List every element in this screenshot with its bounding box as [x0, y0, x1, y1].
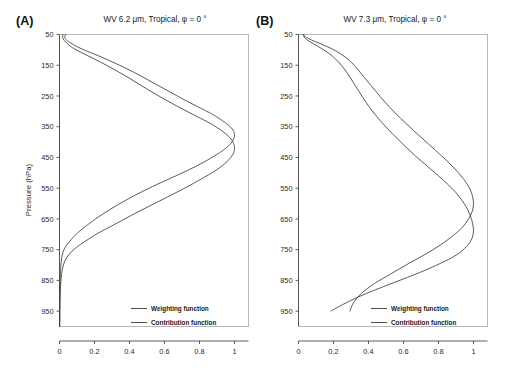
x-tick-label: 1	[471, 347, 475, 356]
y-tick-label: 850	[41, 276, 53, 285]
panel-b-title: WV 7.3 μm, Tropical, φ = 0 °	[343, 15, 446, 24]
legend-label-contribution-a: Contribution function	[151, 319, 216, 326]
panel-a-tag: (A)	[16, 14, 33, 28]
x-tick-label: 0.6	[398, 347, 408, 356]
y-tick-label: 950	[280, 307, 292, 316]
panel-b-tag: (B)	[256, 14, 273, 28]
y-tick-label: 150	[41, 61, 53, 70]
y-tick-label: 350	[41, 122, 53, 131]
y-tick-label: 650	[41, 215, 53, 224]
y-tick-label: 750	[280, 245, 292, 254]
legend-label-weighting-b: Weighting function	[391, 305, 449, 313]
x-tick-label: 0.2	[89, 347, 99, 356]
x-tick-label: 0	[296, 347, 300, 356]
x-tick-label: 0	[57, 347, 61, 356]
panel-a-y-axis-title: Pressure (hPa)	[24, 163, 33, 216]
panel-a-title: WV 6.2 μm, Tropical, φ = 0 °	[103, 15, 206, 24]
y-tick-label: 750	[41, 245, 53, 254]
y-tick-label: 250	[280, 92, 292, 101]
x-tick-label: 1	[232, 347, 236, 356]
y-tick-label: 650	[280, 215, 292, 224]
y-tick-label: 550	[41, 184, 53, 193]
x-tick-label: 0.8	[194, 347, 204, 356]
figure-root: (A) WV 6.2 μm, Tropical, φ = 0 ° Pressur…	[0, 0, 506, 376]
x-tick-label: 0.6	[159, 347, 169, 356]
x-tick-label: 0.4	[124, 347, 134, 356]
y-tick-label: 250	[41, 92, 53, 101]
y-tick-label: 50	[284, 30, 292, 39]
legend-label-contribution-b: Contribution function	[391, 319, 456, 326]
x-tick-label: 0.8	[433, 347, 443, 356]
y-tick-label: 150	[280, 61, 292, 70]
legend-label-weighting-a: Weighting function	[151, 305, 209, 313]
y-tick-label: 550	[280, 184, 292, 193]
x-tick-label: 0.2	[328, 347, 338, 356]
y-tick-label: 950	[41, 307, 53, 316]
y-tick-label: 450	[280, 153, 292, 162]
y-tick-label: 850	[280, 276, 292, 285]
y-tick-label: 50	[45, 30, 53, 39]
y-tick-label: 450	[41, 153, 53, 162]
y-tick-label: 350	[280, 122, 292, 131]
x-tick-label: 0.4	[363, 347, 373, 356]
